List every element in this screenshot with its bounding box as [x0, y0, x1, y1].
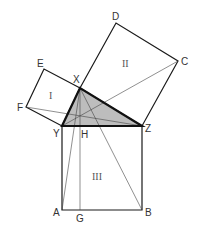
pythagorean-diagram: X Y Z H A G B C D E F I II III: [0, 0, 198, 229]
label-square-ii: II: [122, 58, 129, 69]
triangle-xyz: [62, 88, 142, 126]
label-c: C: [181, 56, 188, 67]
label-a: A: [53, 207, 60, 218]
label-b: B: [145, 207, 152, 218]
label-x: X: [73, 74, 80, 85]
label-f: F: [17, 102, 23, 113]
label-e: E: [37, 58, 44, 69]
square-iii: [62, 126, 142, 210]
label-y: Y: [53, 128, 60, 139]
label-square-i: I: [49, 90, 52, 101]
label-d: D: [112, 11, 119, 22]
label-h: H: [81, 129, 88, 140]
label-square-iii: III: [92, 171, 102, 182]
label-g: G: [76, 213, 84, 224]
label-z: Z: [145, 123, 151, 134]
